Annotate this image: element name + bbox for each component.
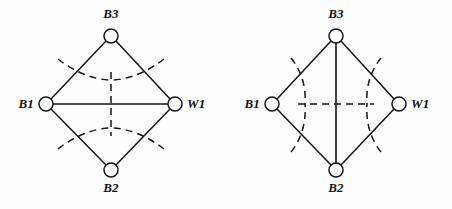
node-label-b1: B1 xyxy=(243,96,260,111)
node-b1[interactable] xyxy=(265,97,279,111)
dashed-arc-lower-left xyxy=(58,128,111,149)
dashed-arc-upper-left xyxy=(58,59,111,80)
node-label-b3: B3 xyxy=(327,6,344,21)
figure-root: B3 B1 W1 B2 xyxy=(0,0,452,209)
edge-w1-b2 xyxy=(116,109,170,165)
node-label-b2: B2 xyxy=(327,180,344,195)
dashed-arc-left-lower xyxy=(291,104,305,152)
graph-figure-canvas: B3 B1 W1 B2 xyxy=(0,0,452,209)
node-b2[interactable] xyxy=(329,163,343,177)
left-diagram: B3 B1 W1 B2 xyxy=(17,6,205,195)
node-b1[interactable] xyxy=(39,97,53,111)
dashed-arc-lower-right xyxy=(111,128,164,149)
node-label-b3: B3 xyxy=(102,6,119,21)
edge-b1-b2 xyxy=(277,109,331,165)
edge-b3-w1 xyxy=(341,41,394,99)
node-b3[interactable] xyxy=(104,29,118,43)
right-diagram: B3 B1 W1 B2 xyxy=(243,6,429,195)
node-b3[interactable] xyxy=(329,29,343,43)
node-label-b1: B1 xyxy=(17,96,34,111)
edge-b3-b1 xyxy=(51,41,106,99)
dashed-arc-right-upper xyxy=(367,58,381,104)
dashed-arc-right-lower xyxy=(367,104,381,152)
node-w1[interactable] xyxy=(168,97,182,111)
edge-b3-w1 xyxy=(116,41,170,99)
edge-b3-b1 xyxy=(277,41,331,99)
node-label-b2: B2 xyxy=(102,180,119,195)
node-w1[interactable] xyxy=(392,97,406,111)
dashed-arc-upper-right xyxy=(111,59,164,80)
node-label-w1: W1 xyxy=(411,96,429,111)
edge-b1-b2 xyxy=(51,109,106,165)
node-b2[interactable] xyxy=(104,163,118,177)
node-label-w1: W1 xyxy=(187,96,205,111)
